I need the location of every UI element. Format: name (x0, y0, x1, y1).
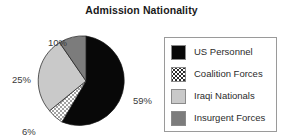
pie-value-label-coalition-forces: 6% (22, 126, 36, 137)
pie-value-label-iraqi-nationals: 25% (12, 74, 31, 85)
legend-item-insurgent-forces: Insurgent Forces (171, 109, 274, 127)
legend-item-us-personnel: US Personnel (171, 43, 274, 61)
pie-value-label-insurgent-forces: 10% (48, 37, 67, 48)
light-gray-swatch-icon (171, 89, 186, 104)
legend-item-coalition-forces: Coalition Forces (171, 65, 274, 83)
pie-chart-plot: 59% 6% 25% 10% (0, 18, 160, 139)
dotted-swatch-icon (171, 67, 186, 82)
pie-value-label-us-personnel: 59% (133, 95, 152, 106)
black-swatch-icon (171, 45, 186, 60)
chart-figure: Admission Nationality 59% 6% 25% 10% (0, 0, 283, 139)
legend-item-label: US Personnel (194, 47, 253, 57)
chart-legend: US Personnel Coalition Forces Iraqi Nati… (164, 37, 277, 132)
legend-item-label: Coalition Forces (194, 69, 263, 79)
page-title: Admission Nationality (0, 4, 283, 16)
legend-item-label: Insurgent Forces (194, 113, 265, 123)
mid-gray-swatch-icon (171, 111, 186, 126)
legend-item-label: Iraqi Nationals (194, 91, 255, 101)
legend-item-iraqi-nationals: Iraqi Nationals (171, 87, 274, 105)
